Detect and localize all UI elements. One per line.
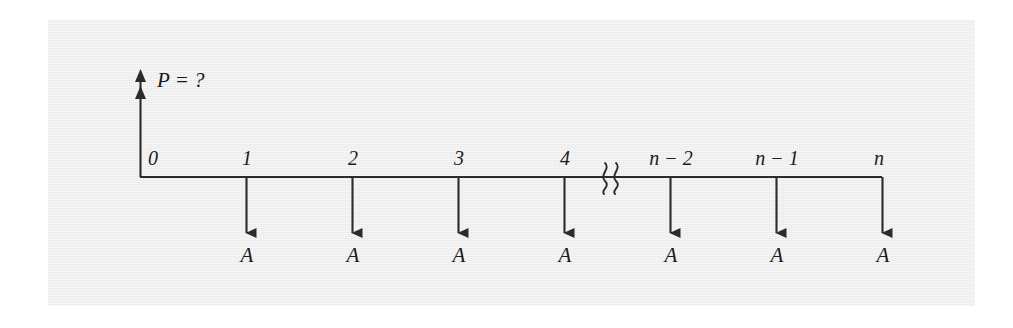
present-worth-label: P = ? [157,70,205,91]
period-label-n-minus-1: n − 1 [755,148,799,168]
payment-label-2: A [347,245,360,266]
period-label-1: 1 [242,148,252,168]
payment-label-3: A [453,245,466,266]
payment-label-n: A [877,245,890,266]
present-worth-arrowhead-upper-icon [135,69,146,82]
period-label-n: n [874,148,884,168]
payment-label-n-minus-2: A [665,245,678,266]
axis-break-icon [603,163,618,194]
payment-label-4: A [559,245,572,266]
figure-canvas: P = ? 0 1 2 3 4 n − 2 n − 1 n A A A A A … [0,0,1013,328]
payment-label-n-minus-1: A [771,245,784,266]
period-label-4: 4 [560,148,570,168]
period-label-2: 2 [348,148,358,168]
present-worth-arrowhead-lower-icon [135,86,146,99]
period-label-n-minus-2: n − 2 [649,148,693,168]
payment-label-1: A [241,245,254,266]
period-label-0: 0 [148,148,158,168]
period-label-3: 3 [454,148,464,168]
